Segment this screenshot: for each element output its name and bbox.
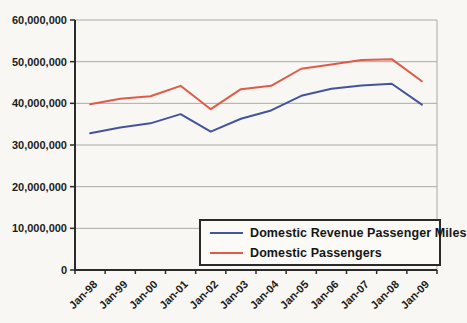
y-axis-label: 60,000,000: [12, 14, 67, 26]
x-axis-label: Jan-99: [97, 278, 130, 311]
x-axis-label: Jan-01: [157, 278, 190, 311]
x-axis-label: Jan-06: [308, 278, 341, 311]
legend-label: Domestic Revenue Passenger Miles: [250, 226, 467, 240]
legend-label: Domestic Passengers: [250, 246, 382, 260]
y-axis-label: 30,000,000: [12, 139, 67, 151]
x-axis-label: Jan-00: [127, 278, 160, 311]
x-axis-label: Jan-08: [368, 278, 401, 311]
series-line-domestic-revenue-passenger-miles: [90, 84, 422, 134]
y-axis-label: 20,000,000: [12, 181, 67, 193]
x-axis-label: Jan-07: [338, 278, 371, 311]
x-axis-label: Jan-02: [187, 278, 220, 311]
x-axis-label: Jan-09: [398, 278, 431, 311]
y-axis-label: 40,000,000: [12, 97, 67, 109]
legend-line-swatch: [210, 232, 243, 234]
legend-line-swatch: [210, 252, 243, 254]
x-axis-label: Jan-03: [217, 278, 250, 311]
x-axis-label: Jan-04: [247, 277, 281, 311]
x-axis-label: Jan-98: [66, 278, 99, 311]
y-axis-label: 10,000,000: [12, 222, 67, 234]
legend-item: Domestic Revenue Passenger Miles: [210, 224, 439, 241]
chart-legend: Domestic Revenue Passenger Miles Domesti…: [199, 219, 441, 266]
x-axis-label: Jan-05: [278, 278, 311, 311]
y-axis-label: 50,000,000: [12, 56, 67, 68]
legend-item: Domestic Passengers: [210, 244, 439, 261]
y-axis-label: 0: [61, 264, 67, 276]
